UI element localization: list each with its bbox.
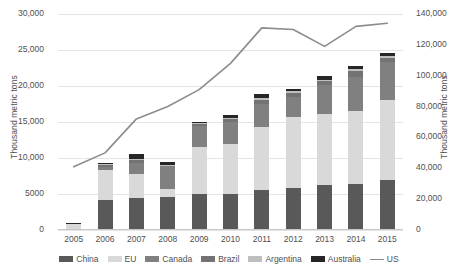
chart-legend: ChinaEUCanadaBrazilArgentinaAustraliaUS bbox=[0, 252, 458, 266]
legend-item-canada[interactable]: Canada bbox=[145, 254, 192, 264]
y-axis-right-tick-label: 40,000 bbox=[416, 163, 442, 172]
x-axis-tick-label: 2006 bbox=[89, 233, 120, 245]
y-axis-left-tick-label: 30,000 bbox=[18, 9, 44, 18]
legend-label: Australia bbox=[328, 254, 361, 264]
y-axis-right-tick-label: 60,000 bbox=[416, 132, 442, 141]
legend-item-china[interactable]: China bbox=[59, 254, 98, 264]
legend-swatch bbox=[59, 256, 73, 262]
legend-item-australia[interactable]: Australia bbox=[311, 254, 361, 264]
legend-label: Canada bbox=[162, 254, 192, 264]
legend-swatch bbox=[311, 256, 325, 262]
y-axis-right-ticks: 020,00040,00060,00080,000100,000120,0001… bbox=[408, 0, 456, 272]
y-axis-right-tick-label: 140,000 bbox=[416, 9, 447, 18]
legend-swatch bbox=[108, 256, 122, 262]
x-axis-tick-label: 2005 bbox=[58, 233, 89, 245]
legend-item-us[interactable]: US bbox=[370, 254, 399, 264]
y-axis-left-ticks: 0500010,00015,00020,00025,00030,000 bbox=[0, 0, 52, 272]
y-axis-left-tick-label: 20,000 bbox=[18, 81, 44, 90]
legend-swatch bbox=[145, 256, 159, 262]
legend-item-eu[interactable]: EU bbox=[108, 254, 137, 264]
x-axis-tick-label: 2008 bbox=[152, 233, 183, 245]
x-axis-tick-label: 2012 bbox=[278, 233, 309, 245]
gridline bbox=[58, 230, 403, 231]
legend-label: US bbox=[387, 254, 399, 264]
legend-label: China bbox=[76, 254, 98, 264]
legend-item-argentina[interactable]: Argentina bbox=[248, 254, 301, 264]
legend-item-brazil[interactable]: Brazil bbox=[201, 254, 239, 264]
y-axis-right-tick-label: 120,000 bbox=[416, 40, 447, 49]
legend-swatch bbox=[201, 256, 215, 262]
line-series-us bbox=[74, 23, 388, 166]
x-axis-tick-label: 2007 bbox=[121, 233, 152, 245]
x-axis-line bbox=[58, 229, 403, 230]
y-axis-left-tick-label: 10,000 bbox=[18, 153, 44, 162]
x-axis-tick-label: 2014 bbox=[340, 233, 371, 245]
y-axis-left-tick-label: 0 bbox=[39, 225, 44, 234]
x-axis-tick-label: 2009 bbox=[183, 233, 214, 245]
legend-label: Argentina bbox=[265, 254, 301, 264]
line-series-layer bbox=[58, 14, 403, 230]
x-axis-labels: 2005200620072008200920102011201220132014… bbox=[58, 233, 403, 247]
legend-label: EU bbox=[125, 254, 137, 264]
chart-container: Thousand metric tons Thousand metric ton… bbox=[0, 0, 458, 272]
x-axis-tick-label: 2010 bbox=[215, 233, 246, 245]
y-axis-left-tick-label: 15,000 bbox=[18, 117, 44, 126]
y-axis-right-tick-label: 0 bbox=[416, 225, 421, 234]
y-axis-right-tick-label: 20,000 bbox=[416, 194, 442, 203]
legend-label: Brazil bbox=[218, 254, 239, 264]
x-axis-tick-label: 2011 bbox=[246, 233, 277, 245]
y-axis-right-tick-label: 100,000 bbox=[416, 71, 447, 80]
x-axis-tick-label: 2015 bbox=[372, 233, 403, 245]
y-axis-left-tick-label: 25,000 bbox=[18, 45, 44, 54]
x-axis-tick-label: 2013 bbox=[309, 233, 340, 245]
plot-area bbox=[58, 14, 403, 230]
y-axis-left-tick-label: 5000 bbox=[25, 189, 44, 198]
legend-swatch bbox=[248, 256, 262, 262]
y-axis-right-tick-label: 80,000 bbox=[416, 102, 442, 111]
legend-line-marker bbox=[370, 259, 384, 260]
